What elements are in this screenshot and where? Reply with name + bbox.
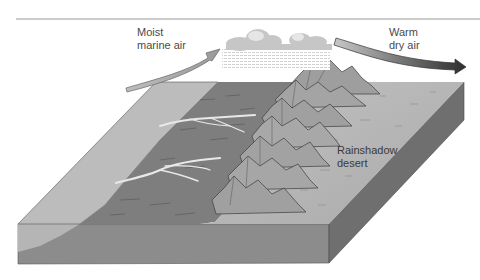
label-line: desert [337, 157, 398, 170]
label-line: dry air [389, 39, 420, 52]
moist-marine-air-label: Moist marine air [137, 26, 186, 52]
label-line: marine air [137, 39, 186, 52]
rain-clouds [222, 29, 332, 70]
rainshadow-diagram: Moist marine air Warm dry air Rainshadow… [0, 0, 480, 280]
label-line: Rainshadow [337, 144, 398, 157]
rainshadow-desert-label: Rainshadow desert [337, 144, 398, 170]
label-line: Warm [389, 26, 420, 39]
block-front-face [18, 224, 329, 264]
label-line: Moist [137, 26, 186, 39]
warm-dry-air-label: Warm dry air [389, 26, 420, 52]
